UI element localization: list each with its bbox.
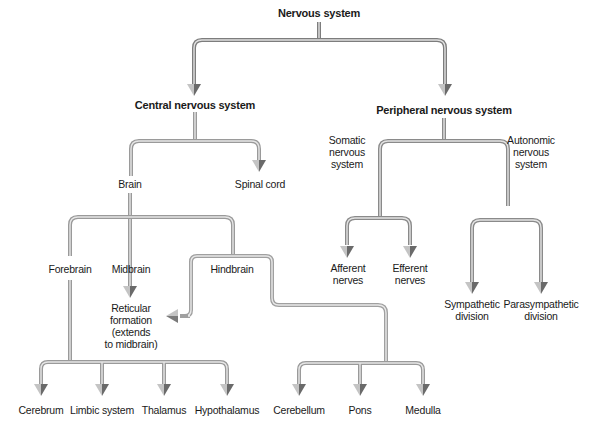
node-limbic-system: Limbic system — [70, 404, 134, 416]
nervous-system-diagram: Nervous system Central nervous system Pe… — [0, 0, 601, 442]
connector-lines — [0, 0, 601, 442]
edge-cns — [131, 112, 259, 176]
node-reticular-formation: Reticular formation (extends to midbrain… — [104, 302, 157, 350]
edge-root — [194, 22, 445, 84]
node-cerebrum: Cerebrum — [18, 404, 63, 416]
node-hindbrain: Hindbrain — [210, 263, 253, 275]
node-efferent-nerves: Efferent nerves — [393, 262, 428, 286]
edge-autonomic — [472, 220, 541, 282]
node-somatic-nervous-system: Somatic nervous system — [329, 134, 366, 170]
node-cerebellum: Cerebellum — [273, 404, 325, 416]
node-thalamus: Thalamus — [142, 404, 187, 416]
edge-pns — [380, 118, 508, 218]
node-hypothalamus: Hypothalamus — [195, 404, 260, 416]
node-autonomic-nervous-system: Autonomic nervous system — [507, 134, 555, 170]
node-nervous-system: Nervous system — [278, 7, 360, 19]
edge-brain — [70, 193, 233, 286]
node-pons: Pons — [348, 404, 371, 416]
node-sympathetic-division: Sympathetic division — [444, 298, 500, 322]
node-peripheral-nervous-system: Peripheral nervous system — [376, 104, 512, 116]
node-parasympathetic-division: Parasympathetic division — [503, 298, 578, 322]
node-forebrain: Forebrain — [48, 263, 91, 275]
node-spinal-cord: Spinal cord — [235, 178, 285, 190]
node-central-nervous-system: Central nervous system — [135, 99, 255, 111]
edge-hindbrain-children — [299, 363, 423, 384]
edge-somatic — [347, 218, 410, 245]
node-brain: Brain — [118, 178, 142, 190]
node-afferent-nerves: Afferent nerves — [331, 262, 366, 286]
node-midbrain: Midbrain — [112, 263, 151, 275]
node-medulla: Medulla — [405, 404, 440, 416]
